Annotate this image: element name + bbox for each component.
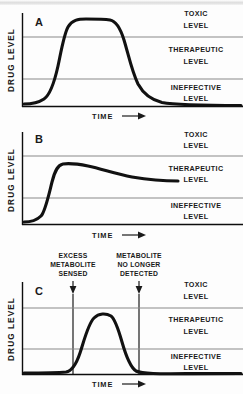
panel-letter-b: B <box>35 133 43 145</box>
x-axis-label-b: TIME <box>92 231 113 240</box>
time-arrow-c <box>122 381 146 388</box>
ineffective-label-c-line1: INEFFECTIVE <box>171 352 222 361</box>
toxic-label-a-line2: LEVEL <box>184 21 209 30</box>
panel-letter-a: A <box>35 16 43 28</box>
y-axis-label-a: DRUG LEVEL <box>7 28 16 92</box>
panel-c: EXCESS METABOLITE SENSED METABOLITE NO L… <box>0 250 243 394</box>
ineffective-label-b-line2: LEVEL <box>184 212 209 221</box>
panel-a-axes <box>22 13 243 107</box>
ineffective-label-c-line2: LEVEL <box>184 363 209 372</box>
drug-level-curve-b <box>24 164 178 222</box>
ineffective-label-a-line1: INEFFECTIVE <box>171 83 222 92</box>
x-axis-label-c: TIME <box>92 380 113 389</box>
annotation-excess-metabolite-sensed: EXCESS METABOLITE SENSED <box>50 252 96 375</box>
ineffective-label-a-line2: LEVEL <box>184 94 209 103</box>
ann-2-line1: METABOLITE <box>116 252 162 259</box>
ann-1-down-arrow-icon <box>70 281 77 294</box>
y-axis-label-b: DRUG LEVEL <box>7 148 16 212</box>
therapeutic-label-c-line1: THERAPEUTIC <box>169 315 224 324</box>
ann-1-line3: SENSED <box>58 270 87 277</box>
panel-b: B DRUG LEVEL TIME TOXIC LEVEL THERAPEUTI… <box>0 130 243 250</box>
y-axis-label-c: DRUG LEVEL <box>7 297 16 361</box>
toxic-label-c-line2: LEVEL <box>184 292 209 301</box>
toxic-label-c-line1: TOXIC <box>184 280 208 289</box>
ann-2-down-arrow-icon <box>136 281 143 294</box>
ann-1-line2: METABOLITE <box>50 261 96 268</box>
ann-2-line3: DETECTED <box>120 270 158 277</box>
ineffective-label-b-line1: INEFFECTIVE <box>171 201 222 210</box>
therapeutic-label-a-line1: THERAPEUTIC <box>169 45 224 54</box>
time-arrow-b <box>122 232 146 239</box>
ann-2-line2: NO LONGER <box>118 261 161 268</box>
panel-c-axes <box>22 282 243 375</box>
time-arrow-a <box>122 113 146 120</box>
panel-letter-c: C <box>35 285 43 297</box>
toxic-label-b-line2: LEVEL <box>184 141 209 150</box>
therapeutic-label-b-line2: LEVEL <box>184 175 209 184</box>
therapeutic-label-a-line2: LEVEL <box>184 57 209 66</box>
ann-1-line1: EXCESS <box>59 252 88 259</box>
panel-a: A DRUG LEVEL TIME TOXIC LEVEL THERAPEUTI… <box>0 0 243 130</box>
x-axis-label-a: TIME <box>92 112 113 121</box>
drug-level-figure: A DRUG LEVEL TIME TOXIC LEVEL THERAPEUTI… <box>0 0 243 394</box>
therapeutic-label-c-line2: LEVEL <box>184 327 209 336</box>
annotation-metabolite-no-longer-detected: METABOLITE NO LONGER DETECTED <box>116 252 162 375</box>
toxic-label-b-line1: TOXIC <box>184 130 208 139</box>
therapeutic-label-b-line1: THERAPEUTIC <box>169 164 224 173</box>
toxic-label-a-line1: TOXIC <box>184 9 208 18</box>
